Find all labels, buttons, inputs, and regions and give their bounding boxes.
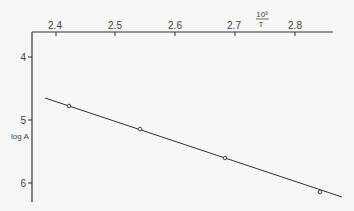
y-axis-label: log A: [11, 132, 29, 141]
y-tick-label: 5: [20, 115, 26, 126]
x-label-numerator: 10³: [256, 10, 268, 19]
chart: 2.4 2.5 2.6 2.7 2.8 10³ T 4 5 6 log A: [0, 0, 354, 211]
x-tick-label: 2.5: [108, 20, 122, 31]
data-point: [223, 156, 227, 160]
y-ticks: 4 5 6: [20, 52, 32, 189]
x-tick-label: 2.6: [168, 20, 182, 31]
fit-line: [45, 98, 342, 197]
x-label-denominator: T: [259, 20, 264, 29]
x-axis-label: 10³ T: [256, 10, 269, 29]
x-tick-label: 2.4: [48, 20, 62, 31]
y-tick-label: 6: [20, 178, 26, 189]
x-tick-label: 2.8: [288, 20, 302, 31]
y-tick-label: 4: [20, 52, 26, 63]
data-point: [318, 190, 322, 194]
data-point: [138, 127, 142, 131]
data-point: [67, 104, 71, 108]
x-tick-label: 2.7: [227, 20, 241, 31]
x-ticks: 2.4 2.5 2.6 2.7 2.8: [48, 20, 302, 36]
